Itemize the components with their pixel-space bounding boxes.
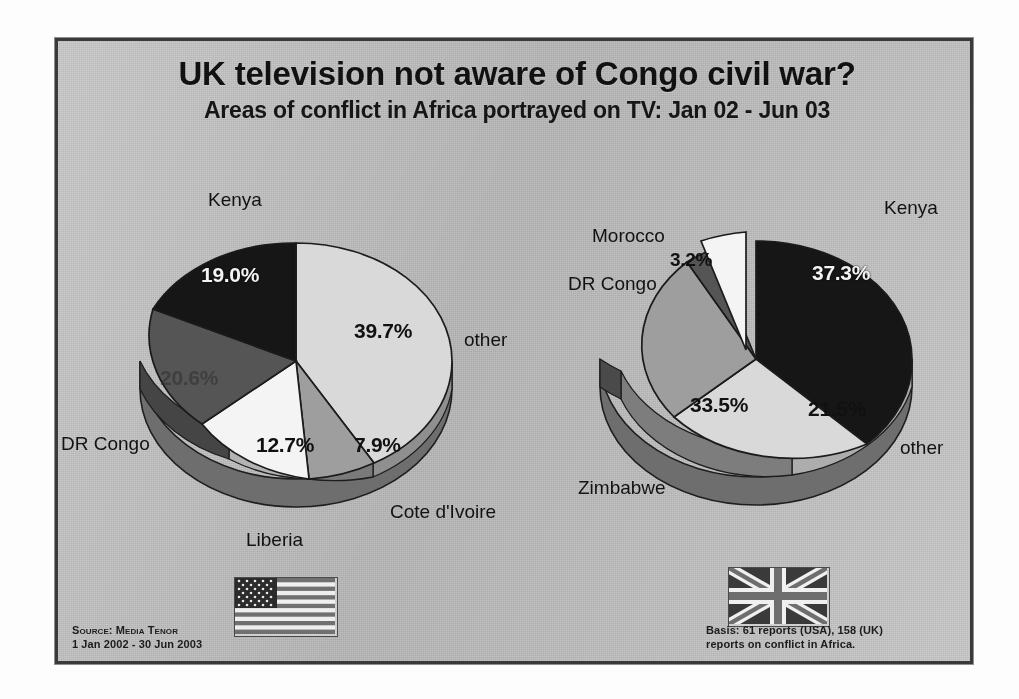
uk-flag-svg [729,568,827,624]
uk-value-morocco: 3.2% [670,249,712,271]
page-subtitle: Areas of conflict in Africa portrayed on… [92,97,942,124]
footnote-basis: Basis: 61 reports (USA), 158 (UK) report… [706,623,956,651]
page-title: UK television not aware of Congo civil w… [92,55,942,93]
usa-value-liberia: 12.7% [256,433,314,457]
footnote-basis-line2: reports on conflict in Africa. [706,637,956,651]
usa-label-other: other [464,329,507,351]
usa-pie-svg [126,211,466,511]
uk-pie-chart: Kenya Morocco DR Congo Zimbabwe other 37… [586,209,926,509]
uk-pie-svg [586,209,926,509]
uk-value-zimbabwe: 33.5% [690,393,748,417]
usa-flag-svg [235,578,335,634]
footnote-source-line2: 1 Jan 2002 - 30 Jun 2003 [72,637,202,651]
scanned-chart-poster: UK television not aware of Congo civil w… [55,38,973,664]
usa-value-drcongo: 20.6% [160,366,218,390]
footnote-source-line1: Source: Media Tenor [72,623,202,637]
uk-label-kenya: Kenya [884,197,938,219]
uk-value-kenya: 37.3% [812,261,870,285]
usa-value-kenya: 19.0% [201,263,259,287]
usa-label-cote: Cote d'Ivoire [390,501,496,523]
uk-label-other: other [900,437,943,459]
usa-flag-icon [234,577,338,637]
footnote-source: Source: Media Tenor 1 Jan 2002 - 30 Jun … [72,623,202,651]
uk-label-drcongo: DR Congo [568,273,657,295]
footnote-basis-line1: Basis: 61 reports (USA), 158 (UK) [706,623,956,637]
uk-value-other: 21.5% [808,397,866,421]
usa-label-drcongo: DR Congo [61,433,150,455]
usa-value-other: 39.7% [354,319,412,343]
usa-value-cote: 7.9% [354,433,401,457]
uk-flag-icon [728,567,830,627]
screenshot-root: UK television not aware of Congo civil w… [0,0,1019,699]
uk-label-zimbabwe: Zimbabwe [578,477,666,499]
usa-pie-chart: Kenya DR Congo Liberia Cote d'Ivoire oth… [126,211,466,511]
usa-label-liberia: Liberia [246,529,303,551]
uk-label-morocco: Morocco [592,225,665,247]
usa-label-kenya: Kenya [208,189,262,211]
